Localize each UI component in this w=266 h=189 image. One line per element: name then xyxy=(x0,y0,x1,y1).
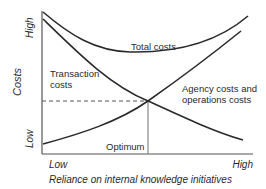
agency-costs-label-line2: operations costs xyxy=(182,94,251,105)
agency-costs-label-line1: Agency costs and xyxy=(182,83,257,94)
cost-diagram: Total costs Transaction costs Agency cos… xyxy=(0,0,266,189)
total-costs-label: Total costs xyxy=(131,41,176,52)
x-axis-title: Reliance on internal knowledge initiativ… xyxy=(49,174,232,185)
x-axis-low-label: Low xyxy=(49,159,68,170)
x-axis-high-label: High xyxy=(232,159,253,170)
y-axis-low-label: Low xyxy=(24,129,35,148)
transaction-costs-label-line2: costs xyxy=(50,79,72,90)
y-axis-high-label: High xyxy=(24,17,35,38)
y-axis-title: Costs xyxy=(11,67,23,96)
transaction-costs-label-line1: Transaction xyxy=(50,68,99,79)
optimum-label: Optimum xyxy=(106,141,145,152)
